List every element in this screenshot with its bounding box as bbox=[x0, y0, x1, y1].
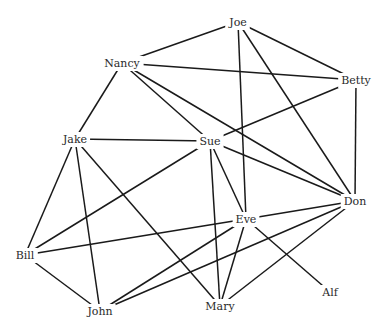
edge-eve-don bbox=[246, 201, 355, 219]
node-label: John bbox=[86, 305, 112, 318]
edge-joe-eve bbox=[238, 22, 246, 219]
edge-bill-john bbox=[25, 255, 100, 311]
node-label: Jake bbox=[62, 133, 87, 146]
node-joe: Joe bbox=[225, 15, 250, 30]
node-betty: Betty bbox=[338, 73, 374, 88]
node-john: John bbox=[83, 304, 115, 319]
edge-eve-john bbox=[100, 219, 246, 311]
edge-layer bbox=[25, 22, 356, 311]
edge-jake-sue bbox=[75, 139, 210, 141]
node-label: Don bbox=[344, 195, 367, 208]
node-label: Betty bbox=[341, 74, 371, 87]
edge-joe-don bbox=[238, 22, 355, 201]
node-label: Bill bbox=[16, 249, 35, 262]
node-sue: Sue bbox=[196, 134, 223, 149]
network-graph: JoeNancyBettyJakeSueDonEveBillAlfJohnMar… bbox=[0, 0, 380, 332]
node-alf: Alf bbox=[318, 285, 341, 300]
edge-jake-bill bbox=[25, 139, 75, 255]
edge-jake-john bbox=[75, 139, 100, 311]
edge-nancy-betty bbox=[122, 63, 356, 80]
node-label: Eve bbox=[236, 213, 257, 226]
edge-nancy-jake bbox=[75, 63, 122, 139]
edge-betty-sue bbox=[210, 80, 356, 141]
node-layer: JoeNancyBettyJakeSueDonEveBillAlfJohnMar… bbox=[13, 15, 375, 319]
edge-betty-don bbox=[355, 80, 356, 201]
edge-joe-betty bbox=[238, 22, 356, 80]
edge-nancy-sue bbox=[122, 63, 210, 141]
node-label: Alf bbox=[321, 286, 338, 299]
node-don: Don bbox=[341, 194, 370, 209]
edge-sue-bill bbox=[25, 141, 210, 255]
node-label: Sue bbox=[199, 135, 220, 148]
node-mary: Mary bbox=[202, 299, 238, 314]
node-bill: Bill bbox=[13, 248, 38, 263]
edge-nancy-don bbox=[122, 63, 355, 201]
edge-sue-eve bbox=[210, 141, 246, 219]
node-jake: Jake bbox=[59, 132, 90, 147]
edge-sue-don bbox=[210, 141, 355, 201]
node-label: Mary bbox=[205, 300, 235, 313]
node-label: Nancy bbox=[104, 57, 140, 70]
edge-eve-bill bbox=[25, 219, 246, 255]
node-label: Joe bbox=[228, 16, 247, 29]
node-nancy: Nancy bbox=[101, 56, 143, 71]
edge-don-john bbox=[100, 201, 355, 311]
node-eve: Eve bbox=[233, 212, 260, 227]
